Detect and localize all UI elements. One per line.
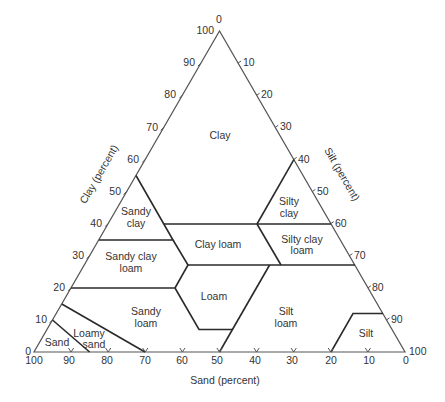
sand-tick-20: 20 — [325, 354, 337, 366]
region-silt-loam-line2: loam — [275, 317, 298, 329]
silt-tick-labels: 0 10 20 30 40 50 60 70 80 90 100 — [216, 13, 427, 357]
sand-tick-90: 90 — [63, 354, 75, 366]
region-silty-clay-line2: clay — [280, 207, 299, 219]
region-loam: Loam — [201, 290, 228, 302]
sand-tick-0: 0 — [403, 354, 409, 366]
silt-tick-30: 30 — [280, 120, 292, 132]
region-clay-loam: Clay loam — [195, 238, 242, 250]
region-sandy-clay-loam-line1: Sandy clay — [105, 250, 157, 262]
region-loamy-sand-line2: sand — [83, 338, 106, 350]
region-silty-clay-line1: Silty — [279, 195, 300, 207]
sand-axis-label: Sand (percent) — [190, 374, 259, 386]
sand-tick-70: 70 — [139, 354, 151, 366]
region-sandy-loam-line2: loam — [135, 317, 158, 329]
silt-tick-0: 0 — [216, 13, 222, 25]
silt-tick-20: 20 — [261, 88, 273, 100]
sand-tick-60: 60 — [176, 354, 188, 366]
clay-tick-30: 30 — [72, 249, 84, 261]
silt-tick-10: 10 — [243, 56, 255, 68]
region-clay: Clay — [209, 129, 231, 141]
clay-tick-80: 80 — [164, 88, 176, 100]
sand-tick-10: 10 — [363, 354, 375, 366]
sand-tick-40: 40 — [249, 354, 261, 366]
silt-tick-90: 90 — [391, 313, 403, 325]
silt-tick-70: 70 — [354, 249, 366, 261]
silt-tick-40: 40 — [298, 153, 310, 165]
clay-tick-20: 20 — [53, 281, 65, 293]
sand-tick-80: 80 — [101, 354, 113, 366]
sand-tick-100: 100 — [25, 354, 43, 366]
clay-tick-50: 50 — [109, 185, 121, 197]
region-silt-loam-line1: Silt — [279, 305, 294, 317]
sand-tick-50: 50 — [211, 354, 223, 366]
region-sandy-clay-loam-line2: loam — [120, 262, 143, 274]
clay-tick-70: 70 — [146, 121, 158, 133]
clay-tick-90: 90 — [183, 56, 195, 68]
clay-tick-40: 40 — [90, 217, 102, 229]
region-silty-clay-loam-line2: loam — [291, 244, 314, 256]
region-labels: Clay Silty clay Sandy clay Clay loam Sil… — [45, 129, 374, 350]
region-sand: Sand — [45, 336, 70, 348]
region-boundaries — [53, 159, 384, 352]
silt-tick-60: 60 — [335, 217, 347, 229]
silt-tick-50: 50 — [317, 185, 329, 197]
silt-tick-80: 80 — [372, 281, 384, 293]
clay-tick-60: 60 — [127, 153, 139, 165]
clay-tick-100: 100 — [196, 24, 214, 36]
region-sandy-loam-line1: Sandy — [131, 305, 162, 317]
sand-tick-labels: 100 90 80 70 60 50 40 30 20 10 0 — [25, 354, 409, 366]
soil-texture-triangle: 100 90 80 70 60 50 40 30 20 10 0 0 10 20… — [0, 0, 445, 402]
silt-tick-100: 100 — [409, 345, 427, 357]
region-sandy-clay-line2: clay — [127, 217, 146, 229]
region-silt: Silt — [359, 327, 374, 339]
clay-tick-10: 10 — [35, 313, 47, 325]
sand-tick-30: 30 — [286, 354, 298, 366]
region-sandy-clay-line1: Sandy — [121, 205, 152, 217]
